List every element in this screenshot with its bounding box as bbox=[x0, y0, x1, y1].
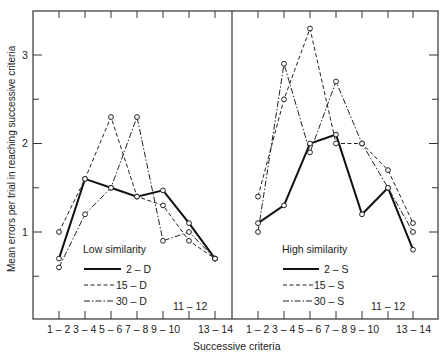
data-point bbox=[57, 265, 62, 270]
data-point bbox=[57, 230, 62, 235]
data-point bbox=[282, 203, 287, 208]
data-point bbox=[83, 212, 88, 217]
ytick-label-3: 3 bbox=[22, 49, 28, 61]
xtick-label: 9 – 10 bbox=[151, 323, 180, 335]
xtick-label-inside: 11 – 12 bbox=[371, 300, 405, 312]
legend-item: 30 – D bbox=[116, 295, 147, 307]
legend-title: Low similarity bbox=[83, 243, 147, 255]
legend-item: 15 – D bbox=[116, 279, 147, 291]
data-point bbox=[282, 97, 287, 102]
data-point bbox=[256, 221, 261, 226]
data-point bbox=[334, 141, 339, 146]
data-point bbox=[334, 79, 339, 84]
xtick-label: 7 – 8 bbox=[324, 323, 348, 335]
data-point bbox=[308, 26, 313, 31]
data-point bbox=[411, 247, 416, 252]
xtick-label: 13 – 14 bbox=[396, 323, 431, 335]
xtick-label: 9 – 10 bbox=[350, 323, 379, 335]
xtick-label: 1 – 2 bbox=[246, 323, 270, 335]
legend-item: 2 – S bbox=[324, 263, 349, 275]
data-point bbox=[386, 168, 391, 173]
xtick-label: 7 – 8 bbox=[125, 323, 149, 335]
data-point bbox=[187, 230, 192, 235]
data-point bbox=[161, 188, 166, 193]
legend-item: 2 – D bbox=[126, 263, 152, 275]
plot-frame bbox=[33, 11, 438, 319]
legend-low-similarity: Low similarity 2 – D 15 – D 30 – D bbox=[83, 243, 152, 307]
series-right bbox=[256, 26, 416, 252]
legend-high-similarity: High similarity 2 – S 15 – S 30 – S bbox=[282, 243, 349, 307]
data-point bbox=[161, 203, 166, 208]
data-point bbox=[109, 115, 114, 120]
legend-item: 15 – S bbox=[314, 279, 344, 291]
data-point bbox=[109, 185, 114, 190]
data-point bbox=[256, 230, 261, 235]
chart: 3 2 1 Mean errors per trial in reaching … bbox=[0, 0, 442, 355]
y-axis-label: Mean errors per trial in reaching succes… bbox=[6, 45, 17, 272]
data-point bbox=[282, 61, 287, 66]
xtick-label: 1 – 2 bbox=[47, 323, 71, 335]
data-point bbox=[135, 115, 140, 120]
xtick-label: 3 – 4 bbox=[272, 323, 296, 335]
data-point bbox=[411, 221, 416, 226]
data-point bbox=[213, 256, 218, 261]
ytick-label-1: 1 bbox=[22, 226, 28, 238]
data-point bbox=[135, 194, 140, 199]
data-point bbox=[187, 221, 192, 226]
series-line-solid bbox=[258, 135, 413, 250]
legend-item: 30 – S bbox=[314, 295, 344, 307]
data-point bbox=[57, 256, 62, 261]
xtick-label: 3 – 4 bbox=[73, 323, 97, 335]
xtick-label: 5 – 6 bbox=[298, 323, 322, 335]
legend-title: High similarity bbox=[282, 243, 348, 255]
data-point bbox=[308, 141, 313, 146]
data-point bbox=[360, 212, 365, 217]
data-point bbox=[308, 150, 313, 155]
x-axis-label: Successive criteria bbox=[193, 340, 281, 352]
data-point bbox=[411, 230, 416, 235]
xtick-label: 5 – 6 bbox=[99, 323, 123, 335]
data-point bbox=[187, 238, 192, 243]
data-point bbox=[161, 238, 166, 243]
data-point bbox=[256, 194, 261, 199]
axis-ticks bbox=[33, 11, 438, 319]
data-point bbox=[386, 185, 391, 190]
data-point bbox=[334, 132, 339, 137]
ytick-label-2: 2 bbox=[22, 137, 28, 149]
xtick-label: 13 – 14 bbox=[198, 323, 233, 335]
xtick-label-inside: 11 – 12 bbox=[173, 300, 207, 312]
data-point bbox=[83, 177, 88, 182]
data-point bbox=[360, 141, 365, 146]
